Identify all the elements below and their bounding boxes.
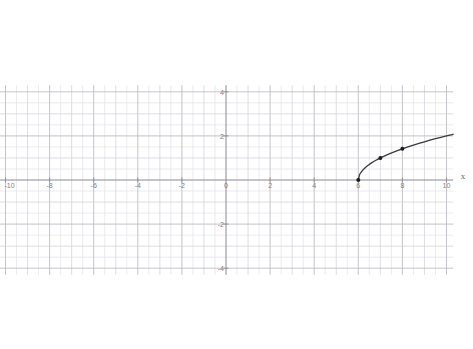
- coordinate-plane: [0, 0, 473, 349]
- x-tick-label: 6: [356, 182, 360, 189]
- y-tick-label: -2: [218, 221, 224, 228]
- y-tick-label: 2: [220, 132, 224, 139]
- y-tick-label: 4: [220, 88, 224, 95]
- x-tick-label: 8: [400, 182, 404, 189]
- x-tick-label: 0: [224, 182, 228, 189]
- x-tick-label: -8: [46, 182, 52, 189]
- data-point: [378, 156, 382, 160]
- x-tick-label: -2: [179, 182, 185, 189]
- x-tick-label: 2: [268, 182, 272, 189]
- x-tick-label: 4: [312, 182, 316, 189]
- x-tick-label: -4: [135, 182, 141, 189]
- function-curve: [358, 134, 453, 180]
- x-tick-label: -6: [91, 182, 97, 189]
- x-axis-label: x: [461, 171, 466, 181]
- x-tick-label: -10: [4, 182, 14, 189]
- graph-paper-figure: -10-8-6-4-20246810 42-2-4 x: [0, 0, 473, 349]
- y-tick-label: -4: [218, 265, 224, 272]
- data-point: [400, 147, 404, 151]
- x-tick-label: 10: [443, 182, 451, 189]
